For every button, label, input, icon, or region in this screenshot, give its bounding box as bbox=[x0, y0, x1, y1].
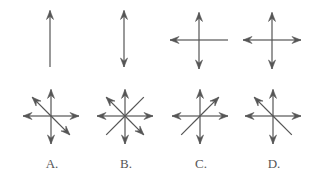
sw-ray bbox=[106, 116, 125, 135]
option-b-label: B. bbox=[106, 156, 146, 172]
sw-ray bbox=[181, 116, 200, 135]
option-figure-b bbox=[97, 89, 153, 144]
option-d-label: D. bbox=[254, 156, 294, 172]
option-figure-d bbox=[245, 89, 301, 144]
option-a-label: A. bbox=[32, 156, 72, 172]
top-figure-1 bbox=[47, 10, 54, 67]
ne-ray bbox=[125, 97, 144, 116]
top-figure-4 bbox=[243, 12, 301, 69]
option-figure-c bbox=[172, 89, 228, 144]
se-ray bbox=[273, 116, 292, 135]
option-c-label: C. bbox=[181, 156, 221, 172]
top-figure-2 bbox=[121, 10, 128, 67]
arrow-pattern-figure bbox=[0, 0, 320, 182]
top-figure-3 bbox=[170, 12, 228, 69]
option-figure-a bbox=[23, 89, 79, 144]
